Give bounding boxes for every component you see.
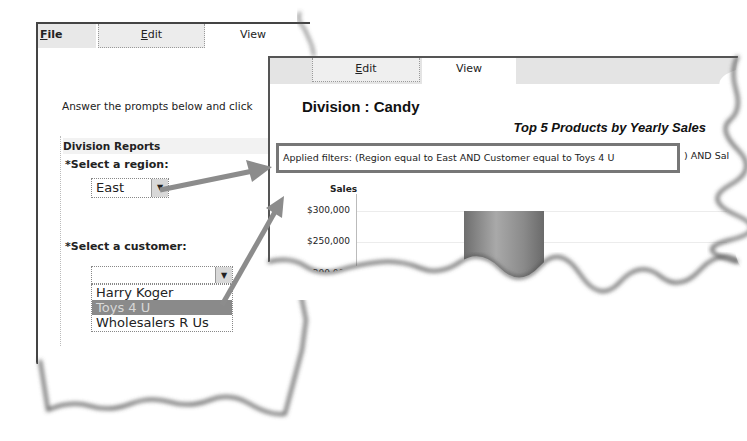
annotation-overlay xyxy=(0,0,747,441)
arrow-icon xyxy=(160,160,272,190)
